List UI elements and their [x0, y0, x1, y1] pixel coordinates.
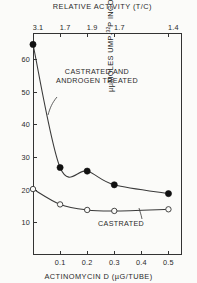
data-point-filled [57, 164, 63, 170]
series-curve-1 [33, 189, 168, 211]
annotation-androgen-treated: CASTRATED AND ANDROGEN TREATED [56, 67, 138, 85]
annotation-line-2: ANDROGEN TREATED [56, 76, 138, 85]
data-point-filled [84, 168, 90, 174]
data-point-open [112, 208, 117, 213]
data-point-open [57, 202, 62, 207]
annotation-castrated: CASTRATED [98, 219, 144, 228]
figure-panel: RELATIVE ACTIVITY (T/C) 0.10.20.30.40.53… [0, 0, 197, 283]
data-point-filled [111, 182, 117, 188]
plot-canvas [0, 0, 197, 283]
leader-line-androgen-treated [48, 97, 57, 115]
data-point-open [30, 186, 35, 191]
data-point-filled [30, 41, 36, 47]
leader-line-castrated [139, 208, 142, 219]
annotation-line-1: CASTRATED AND [56, 67, 138, 76]
data-point-open [166, 207, 171, 212]
data-point-filled [165, 191, 171, 197]
data-point-open [84, 207, 89, 212]
